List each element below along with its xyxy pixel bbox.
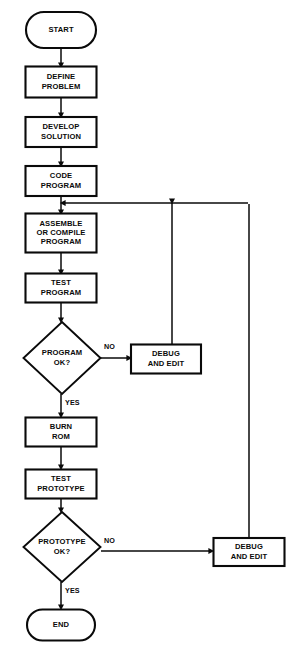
edge-code-assemble bbox=[58, 196, 64, 215]
flowchart-canvas: STARTDEFINEPROBLEMDEVELOPSOLUTIONCODEPRO… bbox=[0, 0, 299, 665]
node-label: DEVELOPSOLUTION bbox=[41, 122, 81, 140]
node-testproto[interactable]: TESTPROTOTYPE bbox=[26, 470, 97, 499]
edge-label-no-2: NO bbox=[104, 536, 115, 545]
edge-testprog-progok bbox=[58, 303, 64, 323]
nodes-layer: STARTDEFINEPROBLEMDEVELOPSOLUTIONCODEPRO… bbox=[24, 12, 285, 641]
node-label: DEFINEPROBLEM bbox=[42, 72, 81, 90]
flowchart-page: STARTDEFINEPROBLEMDEVELOPSOLUTIONCODEPRO… bbox=[0, 0, 299, 665]
edge-progok-burn bbox=[58, 394, 64, 418]
node-debug2[interactable]: DEBUGAND EDIT bbox=[214, 538, 285, 566]
node-label: START bbox=[48, 25, 74, 34]
node-label: BURNROM bbox=[50, 422, 72, 440]
edge-label-yes-1: YES bbox=[65, 398, 80, 407]
node-protook[interactable]: PROTOTYPEOK? bbox=[24, 512, 101, 582]
node-testprog[interactable]: TESTPROGRAM bbox=[26, 274, 97, 303]
node-label: END bbox=[53, 620, 70, 629]
edge-protook-end bbox=[58, 582, 64, 610]
node-start[interactable]: START bbox=[26, 12, 96, 48]
node-burn[interactable]: BURNROM bbox=[26, 418, 97, 447]
node-label: DEBUGAND EDIT bbox=[231, 542, 268, 560]
node-code[interactable]: CODEPROGRAM bbox=[26, 166, 97, 196]
node-label: ASSEMBLEOR COMPILEPROGRAM bbox=[36, 219, 85, 247]
node-develop[interactable]: DEVELOPSOLUTION bbox=[26, 117, 97, 147]
edge-protook-debug2 bbox=[101, 548, 214, 554]
node-progok[interactable]: PROGRAMOK? bbox=[24, 322, 101, 394]
edge-define-develop bbox=[58, 98, 64, 118]
node-label: DEBUGAND EDIT bbox=[148, 349, 185, 367]
edge-progok-debug1 bbox=[101, 355, 132, 361]
node-assemble[interactable]: ASSEMBLEOR COMPILEPROGRAM bbox=[26, 214, 97, 253]
edge-develop-code bbox=[58, 147, 64, 167]
edge-debug1-loop bbox=[169, 198, 175, 345]
edge-assemble-testprog bbox=[58, 253, 64, 275]
node-debug1[interactable]: DEBUGAND EDIT bbox=[131, 345, 201, 374]
node-end[interactable]: END bbox=[27, 610, 95, 641]
edge-testproto-protook bbox=[58, 499, 64, 513]
edge-label-yes-2: YES bbox=[65, 586, 80, 595]
node-define[interactable]: DEFINEPROBLEM bbox=[26, 67, 97, 98]
edge-start-define bbox=[58, 48, 64, 68]
edge-label-no-1: NO bbox=[104, 342, 115, 351]
edge-loop-join bbox=[60, 200, 248, 206]
edge-burn-testproto bbox=[58, 447, 64, 470]
